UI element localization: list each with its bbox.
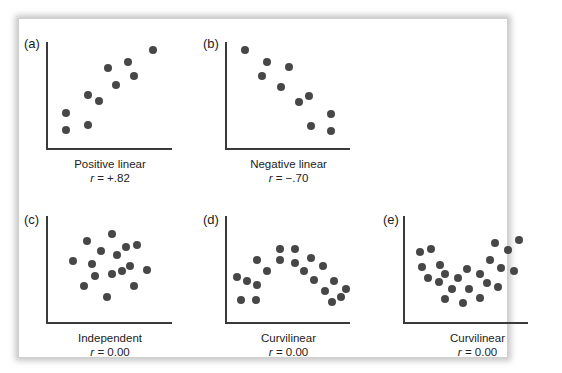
data-point bbox=[319, 262, 327, 270]
data-point bbox=[486, 256, 494, 264]
data-point bbox=[108, 270, 116, 278]
data-point bbox=[310, 276, 318, 284]
data-point bbox=[491, 239, 499, 247]
data-point bbox=[321, 287, 329, 295]
panel-label: (e) bbox=[383, 212, 399, 227]
data-point bbox=[108, 230, 116, 238]
data-point bbox=[441, 270, 449, 278]
panel-label: (b) bbox=[203, 36, 219, 51]
data-point bbox=[291, 245, 299, 253]
data-point bbox=[112, 81, 120, 89]
data-point bbox=[133, 241, 141, 249]
panel-label: (d) bbox=[203, 212, 219, 227]
chart-title: Curvilinear bbox=[226, 331, 351, 345]
data-point bbox=[122, 243, 130, 251]
data-point bbox=[277, 83, 285, 91]
data-point bbox=[237, 296, 245, 304]
y-axis bbox=[46, 42, 48, 150]
data-point bbox=[342, 285, 350, 293]
data-point bbox=[418, 263, 426, 271]
r-value: r = 0.00 bbox=[226, 345, 351, 359]
data-point bbox=[463, 265, 471, 273]
data-point bbox=[459, 299, 467, 307]
data-point bbox=[476, 294, 484, 302]
data-point bbox=[103, 293, 111, 301]
caption: Curvilinear r = 0.00 bbox=[226, 331, 351, 359]
data-point bbox=[291, 259, 299, 267]
x-axis bbox=[225, 148, 350, 150]
data-point bbox=[130, 72, 138, 80]
data-point bbox=[476, 270, 484, 278]
y-axis bbox=[46, 216, 48, 324]
data-point bbox=[95, 97, 103, 105]
y-axis bbox=[403, 216, 405, 324]
data-point bbox=[258, 72, 266, 80]
data-point bbox=[91, 272, 99, 280]
data-point bbox=[305, 92, 313, 100]
y-axis bbox=[225, 216, 227, 324]
data-point bbox=[252, 296, 260, 304]
data-point bbox=[69, 257, 77, 265]
data-point bbox=[328, 298, 336, 306]
data-point bbox=[416, 248, 424, 256]
data-point bbox=[448, 285, 456, 293]
data-point bbox=[327, 127, 335, 135]
chart-title: Negative linear bbox=[226, 157, 351, 171]
x-axis bbox=[46, 322, 172, 324]
data-point bbox=[104, 64, 112, 72]
panel-label: (a) bbox=[24, 36, 40, 51]
data-point bbox=[62, 126, 70, 134]
data-point bbox=[124, 58, 132, 66]
data-point bbox=[253, 256, 261, 264]
data-point bbox=[337, 293, 345, 301]
x-axis bbox=[46, 148, 172, 150]
data-point bbox=[62, 109, 70, 117]
data-point bbox=[307, 254, 315, 262]
chart-title: Positive linear bbox=[47, 157, 173, 171]
x-axis bbox=[403, 322, 528, 324]
r-value: r = +.82 bbox=[47, 171, 173, 185]
data-point bbox=[80, 282, 88, 290]
data-point bbox=[243, 277, 251, 285]
data-point bbox=[483, 279, 491, 287]
data-point bbox=[83, 237, 91, 245]
data-point bbox=[84, 91, 92, 99]
data-point bbox=[307, 122, 315, 130]
data-point bbox=[143, 266, 151, 274]
r-value: r = −.70 bbox=[226, 171, 351, 185]
r-value: r = 0.00 bbox=[415, 345, 540, 359]
caption: Negative linear r = −.70 bbox=[226, 157, 351, 185]
caption: Curvilinear r = 0.00 bbox=[415, 331, 540, 359]
data-point bbox=[130, 282, 138, 290]
data-point bbox=[113, 251, 121, 259]
data-point bbox=[253, 281, 261, 289]
data-point bbox=[504, 246, 512, 254]
data-point bbox=[465, 285, 473, 293]
data-point bbox=[424, 274, 432, 282]
panel-label: (c) bbox=[24, 212, 39, 227]
data-point bbox=[84, 121, 92, 129]
data-point bbox=[97, 247, 105, 255]
chart-title: Curvilinear bbox=[415, 331, 540, 345]
data-point bbox=[263, 58, 271, 66]
data-point bbox=[435, 278, 443, 286]
data-point bbox=[330, 277, 338, 285]
r-value: r = 0.00 bbox=[47, 345, 173, 359]
data-point bbox=[149, 46, 157, 54]
data-point bbox=[276, 245, 284, 253]
data-point bbox=[497, 264, 505, 272]
x-axis bbox=[225, 322, 350, 324]
data-point bbox=[285, 63, 293, 71]
data-point bbox=[241, 46, 249, 54]
data-point bbox=[427, 245, 435, 253]
data-point bbox=[295, 98, 303, 106]
data-point bbox=[510, 267, 518, 275]
data-point bbox=[515, 236, 523, 244]
data-point bbox=[88, 260, 96, 268]
data-point bbox=[233, 273, 241, 281]
data-point bbox=[327, 110, 335, 118]
data-point bbox=[494, 283, 502, 291]
data-point bbox=[436, 261, 444, 269]
data-point bbox=[118, 267, 126, 275]
data-point bbox=[441, 295, 449, 303]
